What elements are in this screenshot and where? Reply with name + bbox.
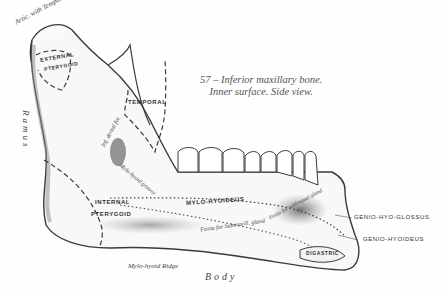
label-temporal: TEMPORAL <box>128 99 166 105</box>
label-internal-pterygoid-1: INTERNAL <box>95 199 130 205</box>
label-genio-hyoideus: GENIO-HYOIDEUS <box>363 236 424 242</box>
label-ramus: Ramus <box>21 110 30 150</box>
label-genio-hyo-glossus: GENIO-HYO-GLOSSUS <box>354 214 430 220</box>
caption-line-2: Inner surface. Side view. <box>200 86 322 98</box>
mandible-illustration <box>0 0 447 297</box>
label-body: Body <box>205 272 238 282</box>
caption-line-1: 57 – Inferior maxillary bone. <box>200 74 322 86</box>
label-mylo-hyoid-ridge: Mylo-hyoid Ridge <box>128 263 178 270</box>
mandible-figure: Artic. with Temporal EXTERNAL PTERYGOID … <box>0 0 447 297</box>
label-digastric: DIGASTRIC <box>306 251 339 256</box>
figure-caption: 57 – Inferior maxillary bone. Inner surf… <box>200 74 322 98</box>
label-internal-pterygoid-2: PTERYGOID <box>91 211 132 217</box>
